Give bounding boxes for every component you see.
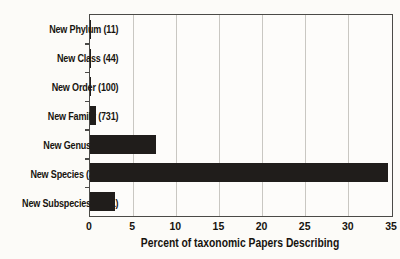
x-tick-label-20: 20: [256, 220, 268, 232]
bar-new-class: [90, 49, 91, 68]
y-axis-tick: [85, 129, 90, 131]
bar-new-phylum: [90, 20, 91, 39]
bar-new-family: [90, 106, 96, 125]
x-axis-title: Percent of taxonomic Papers Describing: [110, 236, 370, 250]
category-label-new-class: New Class (44): [22, 43, 122, 72]
x-tick-label-15: 15: [213, 220, 225, 232]
gridline-25: [305, 15, 306, 216]
x-tick-label-10: 10: [169, 220, 181, 232]
gridline-10: [176, 15, 177, 216]
y-axis-tick: [85, 43, 90, 45]
x-tick-label-35: 35: [385, 220, 397, 232]
x-tick-label-0: 0: [86, 220, 92, 232]
y-axis-tick: [85, 101, 90, 103]
bar-new-genus: [90, 135, 156, 154]
x-tick-label-25: 25: [299, 220, 311, 232]
category-label-new-order: New Order (100): [22, 72, 122, 101]
category-label-new-phylum: New Phylum (11): [22, 14, 122, 43]
category-label-new-family: New Family (731): [22, 101, 122, 130]
x-axis-tick-labels: 05101520253035: [89, 220, 391, 234]
bar-new-subspecies: [90, 192, 115, 211]
plot-area: [89, 14, 393, 217]
gridline-30: [348, 15, 349, 216]
y-axis-category-labels: New Phylum (11)New Class (44)New Order (…: [0, 14, 84, 217]
x-tick-label-30: 30: [342, 220, 354, 232]
gridline-15: [219, 15, 220, 216]
y-axis-tick: [85, 72, 90, 74]
y-axis-tick: [85, 187, 90, 189]
y-axis-tick: [85, 158, 90, 160]
x-tick-label-5: 5: [129, 220, 135, 232]
bar-new-order: [90, 77, 91, 96]
bar-new-species: [90, 163, 388, 182]
bar-chart-figure: New Phylum (11)New Class (44)New Order (…: [0, 0, 400, 259]
gridline-5: [133, 15, 134, 216]
gridline-20: [262, 15, 263, 216]
